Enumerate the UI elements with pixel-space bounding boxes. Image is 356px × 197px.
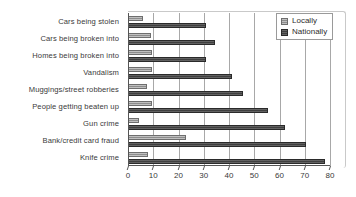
category-label: Knife crime	[0, 149, 122, 166]
legend-label: Nationally	[292, 28, 327, 36]
axis-tick-label: 20	[174, 172, 183, 180]
legend-label: Locally	[292, 17, 317, 25]
category-label: Muggings/street robberies	[0, 81, 122, 98]
legend-entry: Locally	[281, 17, 327, 25]
axis-tick	[202, 166, 204, 170]
axis-tick-label: 0	[126, 172, 130, 180]
category-label: Gun crime	[0, 115, 122, 132]
category-label: Cars being broken into	[0, 30, 122, 47]
axis-tick-label: 60	[275, 172, 284, 180]
category-label: Cars being stolen	[0, 13, 122, 30]
legend: LocallyNationally	[276, 13, 333, 40]
value-axis: 01020304050607080	[128, 166, 330, 188]
category-label: Homes being broken into	[0, 47, 122, 64]
axis-tick-label: 70	[300, 172, 309, 180]
category-axis-labels: Cars being stolenCars being broken intoH…	[0, 13, 122, 166]
bar-chart: Cars being stolenCars being broken intoH…	[0, 0, 356, 197]
axis-tick-label: 10	[149, 172, 158, 180]
category-label: Bank/credit card fraud	[0, 132, 122, 149]
category-label: Vandalism	[0, 64, 122, 81]
axis-tick	[278, 166, 280, 170]
axis-tick-label: 50	[250, 172, 259, 180]
legend-swatch-icon	[281, 18, 288, 25]
axis-tick-label: 80	[326, 172, 335, 180]
axis-tick	[127, 166, 129, 170]
axis-tick	[152, 166, 154, 170]
axis-tick	[228, 166, 230, 170]
axis-tick	[253, 166, 255, 170]
axis-tick	[329, 166, 331, 170]
axis-tick-label: 30	[199, 172, 208, 180]
category-label: People getting beaten up	[0, 98, 122, 115]
legend-swatch-icon	[281, 29, 288, 36]
axis-tick	[177, 166, 179, 170]
axis-tick-label: 40	[225, 172, 234, 180]
axis-tick	[303, 166, 305, 170]
legend-entry: Nationally	[281, 28, 327, 36]
